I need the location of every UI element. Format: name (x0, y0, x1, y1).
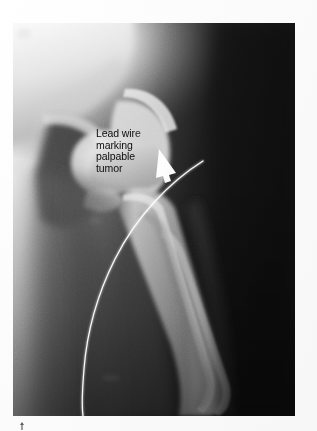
lead-wire-annotation: Lead wire marking palpable tumor (96, 128, 170, 174)
figure-caret-tick-icon (19, 422, 25, 430)
radiograph-figure: Lead wire marking palpable tumor (0, 0, 317, 431)
annotation-line-2: marking (96, 140, 170, 152)
annotation-line-3: palpable (96, 151, 170, 163)
radiograph-plate (13, 23, 295, 416)
annotation-line-1: Lead wire (96, 128, 170, 140)
annotation-line-4: tumor (96, 163, 170, 175)
film-right-edge-band (209, 23, 295, 416)
